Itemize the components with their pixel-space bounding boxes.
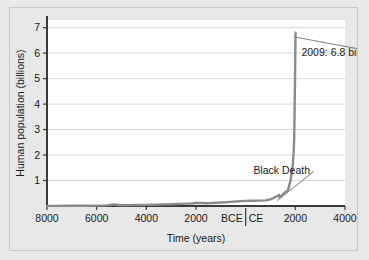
y-tick-label-1: 1 [34,174,40,186]
x-tick-label-4000: 4000 [333,212,357,224]
x-tick-label-6000: 6000 [85,212,109,224]
x-tick-labels-group: 8000600040002000BCECE20004000 [35,212,357,224]
x-tick-label-bce: BCE [221,212,243,224]
x-tick-label-4000: 4000 [135,212,159,224]
y-tick-label-3: 3 [34,123,40,135]
y-tick-labels-group: 1234567 [34,21,40,186]
population-line-chart: 1234567 8000600040002000BCECE20004000 20… [10,8,357,250]
y-tick-label-5: 5 [34,72,40,84]
x-tick-label-2000: 2000 [184,212,208,224]
black-death-annotation-text: Black Death [253,164,310,176]
y-tick-label-6: 6 [34,47,40,59]
y-tick-label-2: 2 [34,149,40,161]
y-tick-label-7: 7 [34,21,40,33]
figure-plate: 1234567 8000600040002000BCECE20004000 20… [9,7,358,251]
y-tick-label-4: 4 [34,98,40,110]
y-axis-title: Human population (billions) [14,49,26,176]
plot-area-background [47,20,345,206]
x-axis-title: Time (years) [167,232,226,244]
figure-page: 1234567 8000600040002000BCECE20004000 20… [0,0,369,260]
x-tick-label-2000: 2000 [284,212,308,224]
x-tick-label-8000: 8000 [35,212,59,224]
x-tick-label-ce: CE [249,212,264,224]
